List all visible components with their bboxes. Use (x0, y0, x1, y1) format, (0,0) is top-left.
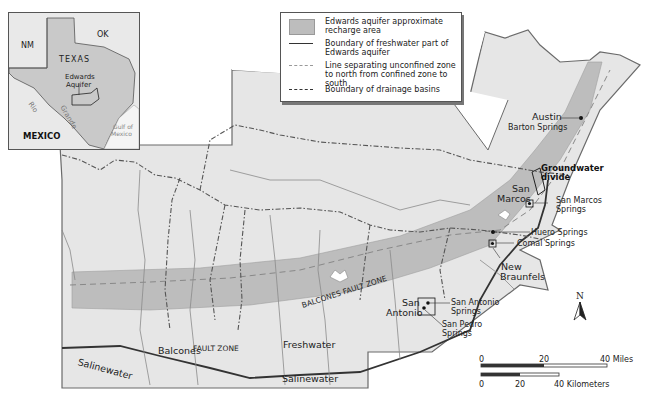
legend-label: Edwards aquifer approximate recharge are… (325, 17, 461, 35)
legend-label: Boundary of drainage basins (325, 85, 461, 94)
inset-label-gulf: Gulf of (113, 123, 133, 130)
north-label: N (576, 292, 584, 301)
label-san-antonio-springs-2: Springs (451, 307, 481, 316)
inset-label-aquifer: Aquifer (66, 81, 91, 89)
label-freshwater: Freshwater (283, 340, 335, 350)
scale-miles-0: 0 (479, 355, 484, 364)
inset-locator-map: NM OK TEXAS Edwards Aquifer Rio Grande G… (8, 12, 140, 150)
scale-bar (481, 364, 607, 376)
solid-line-icon (289, 43, 313, 44)
legend-label: Boundary of freshwater part of Edwards a… (325, 39, 461, 57)
scale-km-40: 40 Kilometers (554, 380, 610, 389)
label-comal-springs: Comal Springs (517, 239, 575, 248)
label-fault-zone: FAULT ZONE (193, 344, 239, 353)
label-barton-springs: Barton Springs (508, 123, 567, 132)
label-san-marcos-springs: San Marcos (556, 196, 602, 205)
inset-label-edwards: Edwards (65, 73, 95, 81)
recharge-swatch-icon (289, 19, 315, 35)
label-san-marcos-2: Marcos (497, 194, 531, 204)
inset-label-ok: OK (97, 30, 109, 39)
inset-label-gulf-mexico: Mexico (111, 130, 132, 137)
label-san-antonio-2: Antonio (386, 308, 423, 318)
label-groundwater-divide-2: divide (541, 173, 570, 182)
scale-km-0: 0 (479, 380, 484, 389)
label-new-braunfels-2: Braunfels (500, 272, 545, 282)
scale-km-20: 20 (515, 380, 525, 389)
inset-label-nm: NM (21, 41, 34, 50)
label-san-pedro-springs-2: Springs (442, 329, 472, 338)
label-san-marcos-springs-2: Springs (556, 205, 586, 214)
scale-miles-40: 40 Miles (600, 355, 633, 364)
label-huero-springs: Huero Springs (531, 228, 588, 237)
label-austin: Austin (532, 112, 562, 122)
label-san-antonio-springs: San Antonio (451, 298, 499, 307)
north-arrow-icon (574, 302, 586, 320)
legend-label: Line separating unconfined zone to north… (325, 61, 461, 88)
label-salinewater-south: Salinewater (282, 374, 338, 384)
inset-label-mexico: MEXICO (23, 132, 60, 141)
inset-label-texas: TEXAS (59, 55, 90, 64)
scale-miles-20: 20 (539, 355, 549, 364)
label-san-pedro-springs: San Pedro (442, 320, 482, 329)
dashed-line-icon (289, 65, 313, 66)
map-legend: Edwards aquifer approximate recharge are… (280, 12, 462, 102)
dash-dot-line-icon (289, 89, 313, 90)
